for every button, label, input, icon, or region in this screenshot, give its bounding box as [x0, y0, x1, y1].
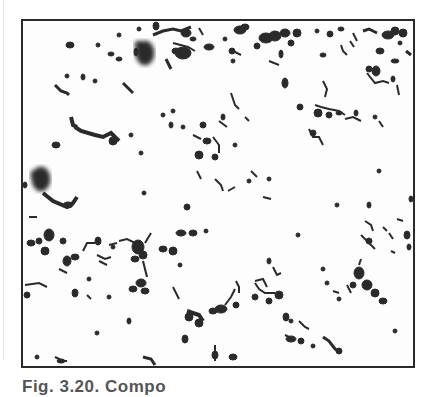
figure-caption: Fig. 3.20. Compo [22, 377, 166, 397]
micrograph-figure [21, 19, 415, 368]
page-edge-line [3, 0, 4, 360]
particle-micrograph-image [23, 21, 413, 366]
